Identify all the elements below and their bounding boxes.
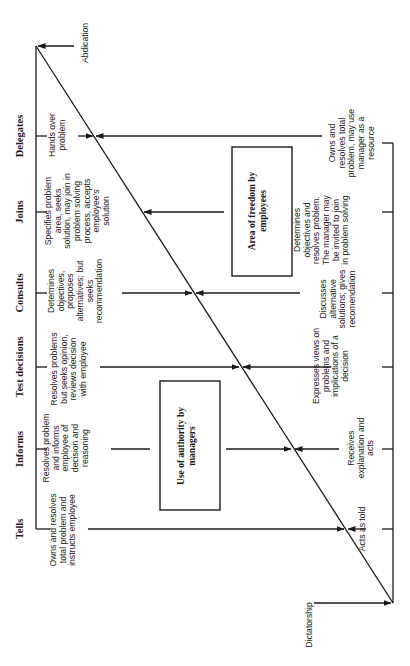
- manager-action-test-decisions: Resolves problems but seeks opinion, rev…: [50, 324, 96, 414]
- employee-action-test-decisions: Expresses views on problems and implicat…: [312, 326, 358, 406]
- employee-action-informs: Receives explanation and acts: [347, 413, 383, 483]
- manager-action-consults: Determines objectives, proposes alternat…: [47, 247, 117, 335]
- stage-header-test-decisions: Test decisions: [14, 317, 30, 417]
- employee-action-delegates: Owns and resolves total problem, may use…: [328, 105, 384, 181]
- dictatorship-label: Dictatorship: [305, 587, 319, 663]
- stage-header-informs: Informs: [14, 419, 30, 479]
- stage-header-delegates: Delegates: [14, 106, 30, 166]
- manager-action-joins: Specifies problem area, seeks solution, …: [44, 166, 122, 256]
- employee-region-label: Area of freedom by employees: [247, 147, 275, 275]
- manager-action-tells: Owns and resolves total problem and inst…: [49, 483, 85, 577]
- manager-action-informs: Resolves problem and informs employee of…: [42, 406, 98, 490]
- manager-action-delegates: Hands over problem: [48, 107, 72, 163]
- stage-header-tells: Tells: [14, 499, 30, 559]
- stage-header-joins: Joins: [14, 182, 30, 242]
- abdication-label: Abdication: [81, 13, 95, 73]
- manager-region-label: Use of authority by managers: [176, 382, 204, 510]
- stage-header-consults: Consults: [14, 263, 30, 323]
- employee-action-tells: Acts as told: [358, 499, 372, 559]
- employee-action-consults: Discusses alternative solutions; gives r…: [319, 262, 365, 336]
